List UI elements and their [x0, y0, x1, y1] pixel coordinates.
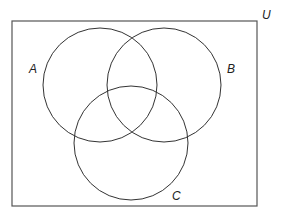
universe-rectangle [12, 21, 257, 206]
set-b-circle [107, 28, 221, 142]
set-b-label: B [227, 62, 235, 76]
set-a-circle [43, 28, 157, 142]
venn-diagram: U A B C [0, 0, 282, 217]
set-c-label: C [172, 189, 181, 203]
universe-label: U [262, 8, 271, 22]
set-a-label: A [28, 62, 37, 76]
set-c-circle [74, 86, 188, 200]
